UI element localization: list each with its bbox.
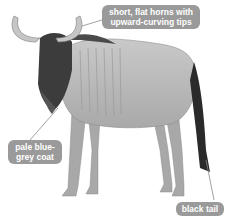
label-horns: short, flat horns with upward-curving ti… xyxy=(102,5,200,29)
tail xyxy=(190,62,210,172)
label-tail: black tail xyxy=(176,202,224,216)
wildebeest-illustration xyxy=(0,0,228,224)
label-coat: pale blue-grey coat xyxy=(8,140,62,164)
